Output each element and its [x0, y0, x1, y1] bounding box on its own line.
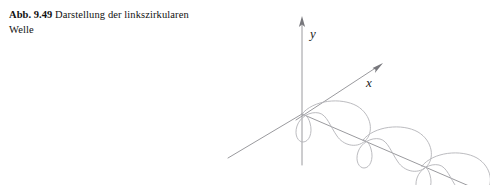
x-axis-label: x [365, 75, 372, 90]
coordinate-system-diagram: y x [0, 0, 490, 185]
y-axis-label: y [308, 26, 316, 41]
z-axis-line-back [228, 114, 302, 158]
x-axis [296, 63, 383, 120]
helix-turn-3 [416, 153, 490, 185]
helix-wave-curve [296, 101, 490, 185]
y-axis [299, 16, 305, 165]
figure-root: Abb. 9.49 Darstellung der linkszirkulare… [0, 0, 490, 185]
diagram-canvas: y x [0, 0, 490, 185]
x-axis-arrow-icon [373, 63, 383, 73]
